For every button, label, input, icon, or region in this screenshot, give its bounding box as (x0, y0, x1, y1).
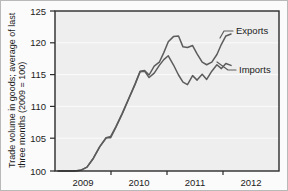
y-axis-title: Trade volume in goods; average of last t… (7, 12, 27, 168)
y-axis-ticks (50, 11, 55, 171)
x-tick-label-2010: 2010 (128, 177, 149, 188)
x-tick-label-2012: 2012 (240, 177, 261, 188)
series-label-imports: Imports (239, 64, 271, 75)
y-tick-label-110: 110 (31, 101, 46, 112)
y-axis-title-line2: three months (2009 = 100) (17, 62, 27, 168)
y-tick-label-105: 105 (30, 133, 46, 144)
series-label-exports: Exports (236, 25, 268, 36)
chart-figure: 125 120 115 110 105 100 2009 2010 2011 2… (0, 0, 288, 191)
y-tick-label-125: 125 (30, 6, 46, 17)
y-axis-title-line1: Trade volume in goods; average of last (7, 12, 17, 168)
x-tick-label-2009: 2009 (72, 177, 93, 188)
y-tick-label-100: 100 (30, 166, 46, 177)
y-tick-label-115: 115 (31, 69, 46, 80)
y-tick-label-120: 120 (30, 37, 46, 48)
x-tick-label-2011: 2011 (185, 177, 205, 188)
trade-volume-line-chart: 125 120 115 110 105 100 2009 2010 2011 2… (0, 0, 288, 191)
